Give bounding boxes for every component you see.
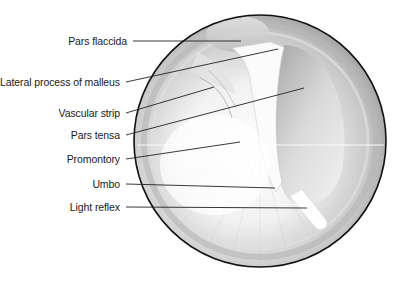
label-vascular-strip: Vascular strip <box>59 107 120 119</box>
label-light-reflex: Light reflex <box>70 201 120 213</box>
label-pars-tensa: Pars tensa <box>71 129 120 141</box>
label-promontory: Promontory <box>67 153 120 165</box>
tympanic-membrane-diagram: Pars flaccidaLateral process of malleusV… <box>0 0 402 287</box>
label-lateral-process-of-malleus: Lateral process of malleus <box>0 76 120 88</box>
eardrum-illustration <box>0 0 402 287</box>
label-pars-flaccida: Pars flaccida <box>68 35 127 47</box>
label-umbo: Umbo <box>92 178 120 190</box>
